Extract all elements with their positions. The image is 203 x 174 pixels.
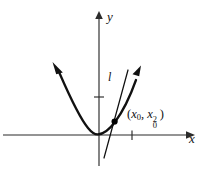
tangent-line-label: l (108, 71, 111, 83)
x-axis-label: x (189, 132, 195, 145)
label-separator: , (141, 107, 144, 121)
y-axis-label: y (107, 10, 113, 23)
parabola-left-arrowhead (53, 62, 63, 74)
tangency-point-label: (x0, x20) (127, 108, 164, 122)
tangency-point-marker (112, 118, 118, 124)
figure-container: y x l (x0, x20) (0, 0, 203, 174)
y-axis-arrowhead (95, 11, 103, 19)
label-y-subscript: 0 (153, 121, 157, 130)
graph-canvas (0, 0, 203, 174)
label-close-paren: ) (160, 107, 164, 121)
parabola-right-arrowhead (133, 66, 142, 77)
